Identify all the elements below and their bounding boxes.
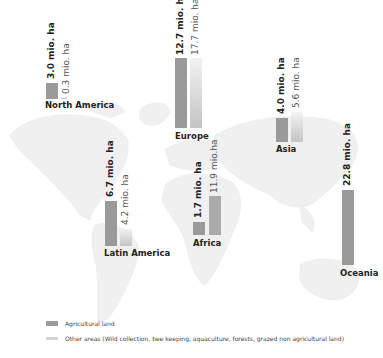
latin-america-other-label: 4.2 mio. ha <box>120 174 130 225</box>
legend-other-swatch <box>46 337 58 340</box>
africa-other-bar <box>209 196 221 235</box>
north-america-other-bar <box>61 97 67 99</box>
africa-other-label: 11.9 mio.ha <box>209 139 219 193</box>
oceania-agri-label: 22.8 mio. ha <box>342 123 352 186</box>
asia-agri-bar <box>276 118 288 142</box>
latin-america-agri-label: 6.7 mio. ha <box>105 140 115 197</box>
north-america-other-label: 0.3 mio. ha <box>61 43 71 94</box>
north-america-region-label: North America <box>45 100 114 110</box>
europe-agri-bar <box>175 58 187 128</box>
asia-agri-label: 4.0 mio. ha <box>276 57 286 114</box>
legend-agricultural: Agricultural land <box>46 320 115 327</box>
asia-other-label: 5.6 mio. ha <box>291 57 301 108</box>
europe-agri-label: 12.7 mio. ha <box>175 0 185 55</box>
legend-other: Other areas (Wild collection, bee keepin… <box>46 335 344 342</box>
latin-america-agri-bar <box>105 201 117 246</box>
africa-region-label: Africa <box>193 238 221 248</box>
asia-region-label: Asia <box>276 144 296 154</box>
latin-america-region-label: Latin America <box>104 248 170 258</box>
world-organic-land-chart: 3.0 mio. ha 0.3 mio. ha North America 12… <box>0 0 383 358</box>
north-america-agri-label: 3.0 mio. ha <box>46 22 56 79</box>
oceania-region-label: Oceania <box>340 268 378 278</box>
europe-other-bar <box>190 58 202 128</box>
legend-other-label: Other areas (Wild collection, bee keepin… <box>65 335 344 342</box>
africa-agri-bar <box>193 222 205 235</box>
oceania-agri-bar <box>342 190 354 265</box>
africa-agri-label: 1.7 mio. ha <box>193 161 203 218</box>
europe-other-label: 17.7 mio. ha <box>190 0 200 55</box>
legend-agri-label: Agricultural land <box>65 320 115 327</box>
legend-agri-swatch <box>46 321 58 326</box>
europe-region-label: Europe <box>175 131 209 141</box>
asia-other-bar <box>291 112 303 142</box>
north-america-agri-bar <box>46 83 58 99</box>
latin-america-other-bar <box>120 229 132 246</box>
